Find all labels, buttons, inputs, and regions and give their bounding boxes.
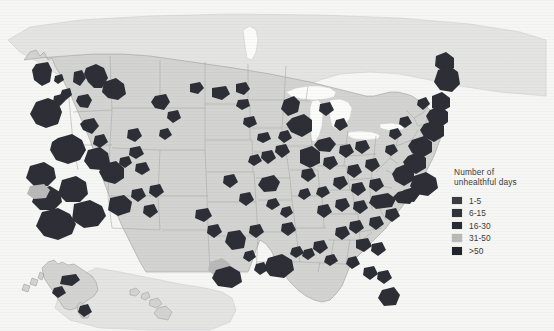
figure-canvas: Number of unhealthful days 1-5 6-15 16-3…	[0, 0, 554, 331]
legend-swatch-16-30	[452, 222, 462, 230]
legend-item-16-30[interactable]: 16-30	[452, 220, 550, 231]
legend-item-over-50[interactable]: >50	[452, 245, 550, 256]
legend-swatch-6-15	[452, 209, 462, 217]
legend-item-6-15[interactable]: 6-15	[452, 207, 550, 218]
us-choropleth-map	[0, 0, 554, 331]
legend-label-over-50: >50	[469, 246, 483, 256]
legend-label-31-50: 31-50	[469, 233, 491, 243]
legend-item-1-5[interactable]: 1-5	[452, 195, 550, 206]
map-svg	[0, 0, 554, 331]
legend-label-1-5: 1-5	[469, 196, 481, 206]
legend-item-31-50[interactable]: 31-50	[452, 233, 550, 244]
legend-title: Number of unhealthful days	[454, 167, 550, 188]
legend-label-6-15: 6-15	[469, 208, 486, 218]
legend-swatch-31-50	[452, 234, 462, 242]
legend-swatch-1-5	[452, 197, 462, 205]
legend-label-16-30: 16-30	[469, 221, 491, 231]
legend-swatch-over-50	[452, 247, 462, 255]
map-legend: Number of unhealthful days 1-5 6-15 16-3…	[452, 167, 550, 258]
